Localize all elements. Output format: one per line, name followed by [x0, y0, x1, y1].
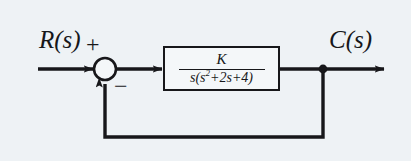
- input-signal-label: R(s): [39, 27, 81, 52]
- transfer-function-block: K s(s2+2s+4): [163, 46, 280, 91]
- output-signal-label: C(s): [329, 27, 372, 52]
- summing-junction: [94, 58, 116, 80]
- transfer-function-denominator: s(s2+2s+4): [188, 70, 255, 86]
- transfer-function-numerator: K: [210, 52, 232, 69]
- transfer-function-fraction: K s(s2+2s+4): [179, 52, 265, 85]
- denominator-prefix: s(s: [190, 70, 206, 85]
- summing-junction-minus-sign: −: [114, 74, 128, 98]
- denominator-suffix: +2s+4): [210, 70, 253, 85]
- summing-junction-plus-sign: +: [86, 32, 100, 56]
- block-diagram-canvas: R(s) C(s) + − K s(s2+2s+4): [0, 0, 411, 161]
